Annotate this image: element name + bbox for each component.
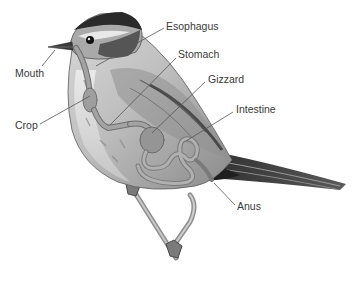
label-intestine: Intestine	[236, 103, 276, 115]
legs	[126, 180, 194, 258]
label-anus: Anus	[237, 200, 261, 212]
label-stomach: Stomach	[178, 48, 219, 60]
bird-illustration	[0, 0, 364, 285]
label-gizzard: Gizzard	[208, 73, 244, 85]
label-mouth: Mouth	[15, 67, 44, 79]
leader-line-anus	[214, 183, 235, 205]
label-crop: Crop	[15, 119, 38, 131]
head	[48, 12, 142, 59]
label-esophagus: Esophagus	[166, 20, 219, 32]
bird-digestive-diagram: Mouth Crop Esophagus Stomach Gizzard Int…	[0, 0, 364, 285]
leader-line-mouth	[42, 50, 55, 66]
